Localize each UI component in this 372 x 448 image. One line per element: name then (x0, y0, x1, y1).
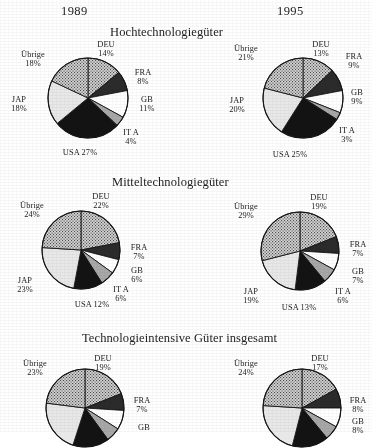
pie-svg (47, 57, 129, 139)
label-jap-c1: JAP18% (6, 95, 32, 114)
pie-chart-hoch-1995 (262, 57, 344, 139)
label-usa-c4: USA 13% (275, 303, 323, 312)
label-gb-c2: GB9% (344, 88, 370, 107)
label-fra-c1: FRA8% (130, 68, 156, 87)
label-jap-c3: JAP23% (12, 276, 38, 295)
column-header-year-1995: 1995 (277, 4, 304, 19)
label-gb-c6: GB8% (345, 417, 371, 436)
label-deu-c5: DEU19% (88, 354, 118, 373)
label-usa-c3: USA 12% (68, 300, 116, 309)
label-deu-c6: DEU17% (305, 354, 335, 373)
label-jap-c2: JAP20% (224, 96, 250, 115)
label-uebrige-c4: Übrige29% (228, 202, 264, 221)
pie-svg (262, 368, 342, 448)
label-gb-c3: GB6% (124, 266, 150, 285)
section-title-mitteltechnologiegueter: Mitteltechnologiegüter (112, 175, 229, 190)
label-uebrige-c5: Übrige23% (17, 359, 53, 378)
label-uebrige-c1: Übrige18% (15, 50, 51, 69)
label-deu-c4: DEU19% (304, 193, 334, 212)
section-title-technologieintensive-gueter-insgesamt: Technologieintensive Güter insgesamt (82, 331, 277, 346)
pie-svg (262, 57, 344, 139)
label-deu-c1: DEU14% (91, 40, 121, 59)
pie-chart-mittel-1989 (41, 210, 121, 290)
label-fra-c4: FRA7% (345, 240, 371, 259)
label-gb-c1: GB11% (134, 95, 160, 114)
pie-svg (41, 210, 121, 290)
label-deu-c2: DEU13% (306, 40, 336, 59)
label-ita-c2: IT A3% (334, 126, 360, 145)
label-fra-c3: FRA7% (126, 243, 152, 262)
pie-slice-ubrige (263, 369, 302, 408)
pie-chart-gesamt-1989 (45, 368, 125, 448)
pie-chart-mittel-1995 (260, 211, 340, 291)
label-jap-c4: JAP19% (238, 287, 264, 306)
label-uebrige-c3: Übrige24% (14, 201, 50, 220)
label-fra-c2: FRA9% (341, 52, 367, 71)
label-gb-c4: GB7% (345, 267, 371, 286)
label-uebrige-c6: Übrige24% (228, 359, 264, 378)
pie-svg (45, 368, 125, 448)
pie-svg (260, 211, 340, 291)
label-usa-c1: USA 27% (56, 148, 104, 157)
label-ita-c1: IT A4% (118, 128, 144, 147)
column-header-year-1989: 1989 (61, 4, 88, 19)
label-uebrige-c2: Übrige21% (228, 44, 264, 63)
label-gb-c5: GB (131, 423, 157, 432)
label-fra-c6: FRA8% (345, 396, 371, 415)
label-fra-c5: FRA7% (129, 396, 155, 415)
pie-chart-hoch-1989 (47, 57, 129, 139)
section-title-hochtechnologiegueter: Hochtechnologiegüter (110, 25, 223, 40)
label-ita-c4: IT A6% (330, 287, 356, 306)
label-usa-c2: USA 25% (266, 150, 314, 159)
label-deu-c3: DEU22% (86, 192, 116, 211)
pie-chart-gesamt-1995 (262, 368, 342, 448)
pie-slice-jap (42, 248, 81, 289)
